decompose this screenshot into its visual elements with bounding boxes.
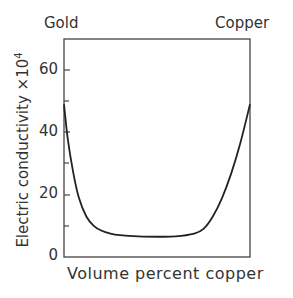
y-axis-label: Electric conductivity ×104 — [13, 52, 32, 247]
gold-label: Gold — [44, 14, 79, 32]
y-tick-0: 0 — [28, 246, 58, 264]
copper-label: Copper — [215, 14, 269, 32]
y-tick-40: 40 — [28, 122, 58, 140]
x-axis-label: Volume percent copper — [67, 264, 264, 283]
conductivity-curve — [64, 104, 250, 236]
y-tick-60: 60 — [28, 60, 58, 78]
y-tick-20: 20 — [28, 184, 58, 202]
